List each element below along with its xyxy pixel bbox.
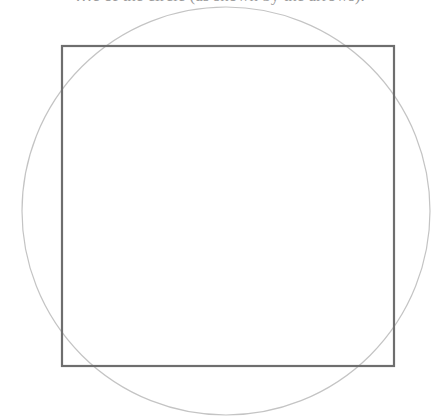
- diagram: [0, 0, 440, 418]
- square: [62, 46, 394, 366]
- circumscribed-circle: [22, 7, 430, 415]
